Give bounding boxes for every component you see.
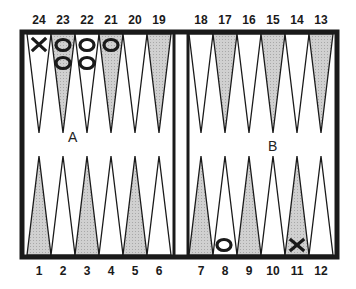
point-label: 1: [27, 264, 51, 278]
point-label: 5: [123, 264, 147, 278]
point-label: 24: [27, 13, 51, 27]
point-label: 13: [309, 13, 333, 27]
point-label: 21: [99, 13, 123, 27]
point-label: 23: [51, 13, 75, 27]
backgammon-board: [0, 0, 356, 289]
point-label: 19: [147, 13, 171, 27]
annotation-a: A: [68, 129, 77, 145]
point-label: 22: [75, 13, 99, 27]
point-label: 12: [309, 264, 333, 278]
point-label: 2: [51, 264, 75, 278]
point-label: 8: [213, 264, 237, 278]
point-label: 14: [285, 13, 309, 27]
point-label: 15: [261, 13, 285, 27]
annotation-b: B: [268, 138, 277, 154]
point-label: 7: [189, 264, 213, 278]
point-label: 4: [99, 264, 123, 278]
point-label: 11: [285, 264, 309, 278]
point-label: 16: [237, 13, 261, 27]
point-label: 6: [147, 264, 171, 278]
point-label: 10: [261, 264, 285, 278]
point-label: 20: [123, 13, 147, 27]
point-label: 18: [189, 13, 213, 27]
point-label: 9: [237, 264, 261, 278]
point-label: 3: [75, 264, 99, 278]
point-label: 17: [213, 13, 237, 27]
